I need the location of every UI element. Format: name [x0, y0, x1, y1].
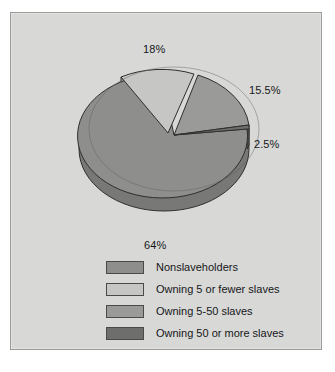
figure-root: 18% 15.5% 2.5% 64% Nonslaveholders Ownin… [0, 0, 335, 372]
pct-label-owning-50-or-more: 2.5% [254, 138, 279, 150]
chart-legend: Nonslaveholders Owning 5 or fewer slaves… [106, 260, 316, 348]
pct-label-owning-5-or-fewer: 18% [143, 43, 165, 55]
legend-label-owning-5-50: Owning 5-50 slaves [156, 304, 253, 319]
legend-item-nonslaveholders: Nonslaveholders [106, 260, 316, 276]
legend-item-owning-5-or-fewer: Owning 5 or fewer slaves [106, 282, 316, 298]
legend-item-owning-50-or-more: Owning 50 or more slaves [106, 326, 316, 342]
chart-frame: 18% 15.5% 2.5% 64% Nonslaveholders Ownin… [10, 12, 322, 350]
legend-swatch-owning-50-or-more [106, 327, 144, 340]
pie-chart: 18% 15.5% 2.5% 64% [11, 13, 323, 228]
legend-swatch-owning-5-or-fewer [106, 283, 144, 296]
legend-label-nonslaveholders: Nonslaveholders [156, 260, 238, 275]
pie-chart-svg [11, 13, 323, 228]
pct-label-owning-5-50: 15.5% [249, 84, 281, 96]
legend-swatch-nonslaveholders [106, 261, 144, 274]
legend-swatch-owning-5-50 [106, 305, 144, 318]
legend-item-owning-5-50: Owning 5-50 slaves [106, 304, 316, 320]
pct-label-nonslaveholders: 64% [144, 239, 166, 251]
legend-label-owning-50-or-more: Owning 50 or more slaves [156, 326, 284, 341]
legend-label-owning-5-or-fewer: Owning 5 or fewer slaves [156, 282, 280, 297]
